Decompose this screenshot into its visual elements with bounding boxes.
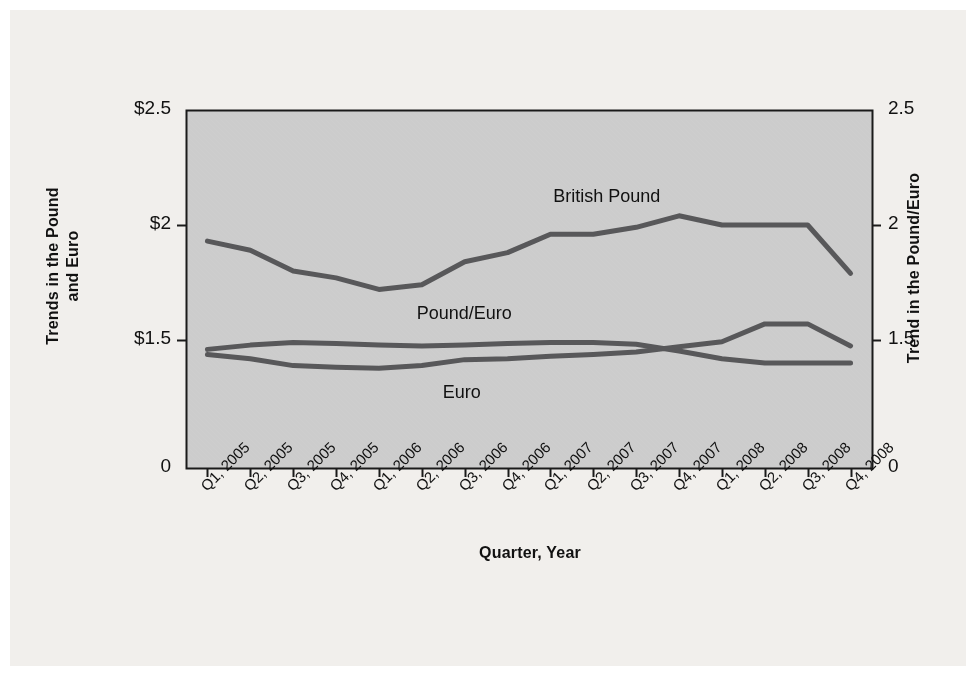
y-axis-left-tick-label: $1.5 bbox=[101, 327, 171, 349]
chart-figure: Trends in the Pound and Euro Trend in th… bbox=[0, 0, 976, 676]
y-axis-left-title-line1: Trends in the Pound bbox=[44, 187, 61, 345]
y-axis-right-tick-label: 2 bbox=[888, 212, 958, 234]
series-label-british-pound: British Pound bbox=[553, 186, 660, 207]
y-axis-left-tick-label: $2.5 bbox=[101, 97, 171, 119]
series-label-euro: Euro bbox=[443, 382, 481, 403]
y-axis-left-title: Trends in the Pound and Euro bbox=[43, 166, 83, 366]
x-axis-title: Quarter, Year bbox=[340, 543, 720, 563]
y-axis-left-title-line2: and Euro bbox=[64, 231, 81, 302]
y-axis-right-tick-label: 0 bbox=[888, 455, 958, 477]
y-axis-right-tick-label: 1.5 bbox=[888, 327, 958, 349]
y-axis-right-tick-label: 2.5 bbox=[888, 97, 958, 119]
y-axis-left-tick-label: 0 bbox=[101, 455, 171, 477]
series-label-pound-euro: Pound/Euro bbox=[417, 303, 512, 324]
y-axis-left-tick-label: $2 bbox=[101, 212, 171, 234]
